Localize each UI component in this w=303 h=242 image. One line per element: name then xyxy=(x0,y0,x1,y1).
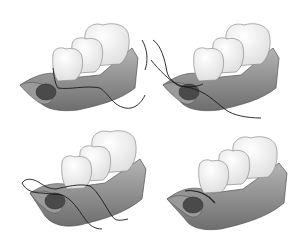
panel-step-4 xyxy=(151,121,302,242)
panel-step-2 xyxy=(151,0,302,121)
panel-step-1 xyxy=(0,0,151,121)
tooth-gum-illustration xyxy=(0,121,151,242)
extraction-socket xyxy=(36,84,56,100)
extraction-socket xyxy=(183,197,203,213)
panel-step-3 xyxy=(0,121,151,242)
tooth-gum-illustration xyxy=(0,0,151,121)
tooth-gum-illustration xyxy=(151,121,302,242)
tooth-gum-illustration xyxy=(151,0,302,121)
